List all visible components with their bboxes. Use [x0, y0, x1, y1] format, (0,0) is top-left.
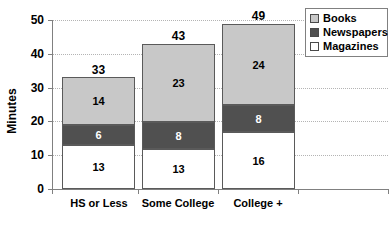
- legend: Books Newspapers Magazines: [305, 8, 388, 57]
- x-tick-mark-0: [52, 189, 53, 194]
- bar-segment-magazines-college-plus[interactable]: 16: [222, 132, 295, 189]
- legend-item-newspapers[interactable]: Newspapers: [310, 26, 384, 39]
- stacked-bar-chart: Minutes 50 40 30 20 10 0 33 14 6 13 43 2…: [0, 0, 389, 225]
- legend-swatch-magazines-icon: [310, 42, 319, 51]
- y-axis-line: [52, 20, 53, 189]
- x-category-label-hs-or-less: HS or Less: [55, 197, 143, 209]
- y-tick-mark-10: [48, 155, 53, 156]
- bar-segment-newspapers-some-college[interactable]: 8: [142, 122, 215, 149]
- y-tick-mark-40: [48, 54, 53, 55]
- bar-total-label-hs-or-less: 33: [62, 63, 135, 77]
- bar-total-label-some-college: 43: [142, 29, 215, 43]
- x-tick-mark-1: [138, 189, 139, 194]
- bar-segment-magazines-hs-or-less[interactable]: 13: [62, 145, 135, 189]
- bar-segment-books-college-plus[interactable]: 24: [222, 24, 295, 105]
- bar-segment-newspapers-college-plus[interactable]: 8: [222, 105, 295, 132]
- legend-label-books: Books: [323, 13, 357, 24]
- bar-total-label-college-plus: 49: [222, 9, 295, 23]
- y-tick-label-40: 40: [14, 49, 44, 59]
- x-tick-mark-2: [218, 189, 219, 194]
- legend-label-newspapers: Newspapers: [323, 27, 388, 38]
- y-tick-label-20: 20: [14, 116, 44, 126]
- y-tick-label-10: 10: [14, 150, 44, 160]
- y-tick-mark-30: [48, 88, 53, 89]
- y-tick-label-30: 30: [14, 83, 44, 93]
- bar-segment-books-some-college[interactable]: 23: [142, 44, 215, 122]
- x-category-label-college-plus: College +: [214, 197, 302, 209]
- legend-label-magazines: Magazines: [323, 41, 379, 52]
- x-axis-line: [52, 189, 388, 190]
- legend-item-books[interactable]: Books: [310, 12, 384, 25]
- y-tick-label-50: 50: [14, 15, 44, 25]
- bar-segment-magazines-some-college[interactable]: 13: [142, 149, 215, 189]
- legend-swatch-newspapers-icon: [310, 28, 319, 37]
- bar-segment-newspapers-hs-or-less[interactable]: 6: [62, 125, 135, 145]
- x-category-label-some-college: Some College: [134, 197, 222, 209]
- y-tick-mark-20: [48, 121, 53, 122]
- legend-swatch-books-icon: [310, 14, 319, 23]
- legend-item-magazines[interactable]: Magazines: [310, 40, 384, 53]
- bar-segment-books-hs-or-less[interactable]: 14: [62, 77, 135, 125]
- x-tick-mark-3: [298, 189, 299, 194]
- y-tick-mark-50: [48, 20, 53, 21]
- y-tick-label-0: 0: [14, 184, 44, 194]
